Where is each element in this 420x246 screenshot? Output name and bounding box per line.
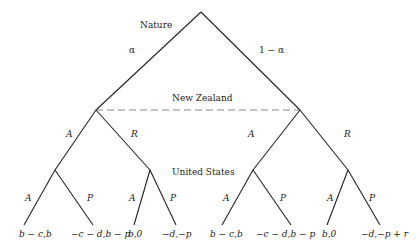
payoff-4: −d,−p [162, 229, 192, 239]
game-tree: Nature New Zealand United States α 1 − α… [0, 0, 420, 246]
payoff-2: −c − d,b − p [71, 229, 130, 239]
label-us-2-p: P [169, 193, 177, 203]
payoff-5: b − c,b [210, 229, 243, 239]
label-nz-left-a: A [65, 129, 73, 139]
label-new-zealand: New Zealand [172, 93, 233, 103]
edge-nz-left-r [96, 110, 150, 170]
label-united-states: United States [172, 167, 235, 177]
edge-us-4-p [348, 170, 380, 225]
label-nz-right-a: A [247, 129, 255, 139]
edge-nz-right-a [253, 110, 300, 170]
label-us-3-p: P [279, 193, 287, 203]
payoff-3: b,0 [128, 229, 143, 239]
payoff-8: −d,−p + r [361, 229, 409, 239]
label-us-2-a: A [128, 193, 136, 203]
edge-us-2-a [134, 170, 150, 225]
payoff-7: b,0 [322, 229, 337, 239]
label-us-3-a: A [222, 193, 230, 203]
label-one-minus-alpha: 1 − α [259, 45, 284, 55]
label-us-4-p: P [368, 193, 376, 203]
edge-nz-left-a [55, 110, 96, 170]
label-alpha: α [129, 45, 135, 55]
payoff-6: −c − d,b − p [256, 229, 315, 239]
label-nz-left-r: R [130, 129, 138, 139]
label-us-1-a: A [24, 193, 32, 203]
label-us-1-p: P [86, 193, 94, 203]
label-us-4-a: A [326, 193, 334, 203]
label-nature: Nature [140, 20, 172, 30]
edge-nz-right-r [300, 110, 348, 170]
label-nz-right-r: R [343, 129, 351, 139]
payoff-1: b − c,b [19, 229, 52, 239]
